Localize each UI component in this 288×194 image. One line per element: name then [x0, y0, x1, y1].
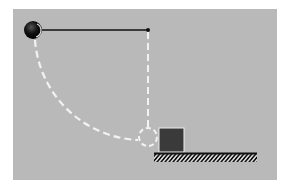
block	[159, 128, 184, 152]
ground-hatching	[154, 154, 257, 162]
pivot-point	[146, 28, 150, 32]
pendulum-ball	[24, 21, 42, 39]
pendulum-diagram	[0, 0, 288, 194]
